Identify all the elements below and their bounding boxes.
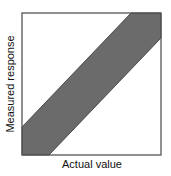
shaded-band [22, 13, 161, 155]
y-axis-label: Measured response [4, 35, 16, 132]
x-axis-label: Actual value [22, 158, 162, 170]
band-chart [0, 0, 171, 176]
